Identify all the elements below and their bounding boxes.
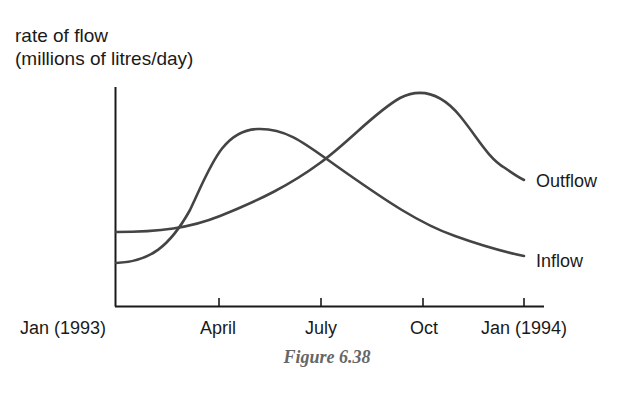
x-tick-label-oct: Oct bbox=[410, 318, 438, 339]
outflow-label: Outflow bbox=[536, 171, 597, 192]
x-tick-label-jan-1994: Jan (1994) bbox=[481, 318, 567, 339]
inflow-label: Inflow bbox=[536, 251, 583, 272]
outflow-curve bbox=[116, 93, 524, 232]
x-tick-label-april: April bbox=[200, 318, 236, 339]
inflow-curve bbox=[116, 129, 524, 263]
figure-caption: Figure 6.38 bbox=[0, 347, 642, 368]
x-tick-label-jan-1993: Jan (1993) bbox=[20, 318, 106, 339]
x-tick-label-july: July bbox=[305, 318, 337, 339]
